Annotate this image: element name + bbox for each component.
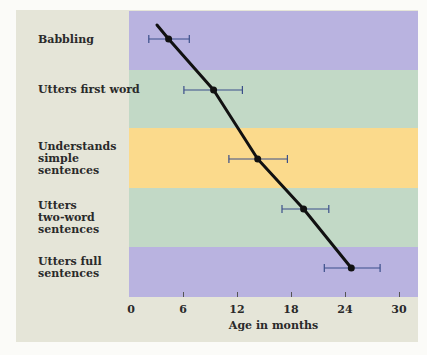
data-point — [210, 87, 217, 94]
data-point — [254, 156, 261, 163]
trend-line — [157, 25, 351, 268]
data-point — [165, 36, 172, 43]
data-overlay — [0, 0, 427, 355]
data-point — [300, 206, 307, 213]
data-point — [348, 265, 355, 272]
